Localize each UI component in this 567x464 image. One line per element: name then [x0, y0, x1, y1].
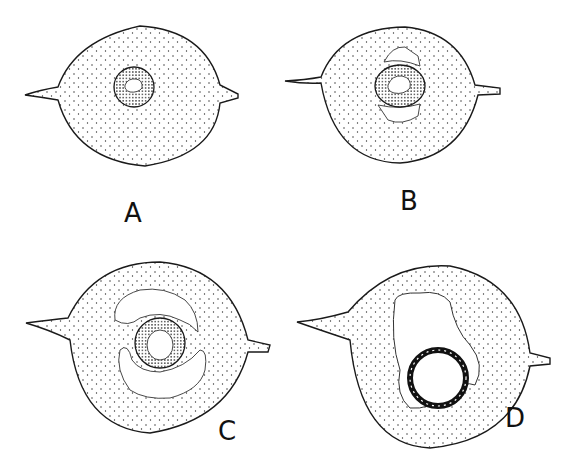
cell-b: [285, 27, 500, 163]
cell-c-vacuole: [147, 330, 173, 360]
panel-label-b: B: [400, 188, 418, 214]
figure-canvas: [0, 0, 567, 464]
cell-c: [26, 262, 270, 433]
panel-label-a: A: [124, 200, 142, 226]
panel-label-c: C: [218, 418, 236, 444]
panel-label-d: D: [505, 405, 525, 431]
cell-a-vacuole: [125, 79, 142, 92]
cell-a: [25, 26, 238, 166]
